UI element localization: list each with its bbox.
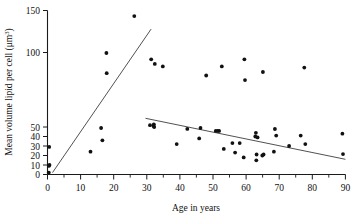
data-point xyxy=(274,134,278,138)
y-tick-label: 0 xyxy=(35,170,40,180)
x-tick-label: 70 xyxy=(274,183,284,193)
data-point xyxy=(220,65,224,69)
data-point xyxy=(222,147,226,151)
y-tick-label: 150 xyxy=(26,6,41,16)
y-axis-title-close: ) xyxy=(4,28,15,31)
y-tick-label: 40 xyxy=(31,132,41,142)
x-tick-label: 90 xyxy=(341,183,351,193)
y-tick-label: 50 xyxy=(31,123,41,133)
declining-regression-line xyxy=(146,118,346,159)
data-point xyxy=(153,62,157,66)
data-point xyxy=(233,151,237,155)
data-point xyxy=(273,127,277,131)
data-point xyxy=(303,142,307,146)
data-point xyxy=(287,144,291,148)
data-point xyxy=(261,70,265,74)
data-point xyxy=(47,145,51,149)
x-tick-label: 60 xyxy=(241,183,251,193)
y-tick-label: 100 xyxy=(26,48,41,58)
data-point xyxy=(161,65,165,69)
data-point xyxy=(302,66,306,70)
data-point xyxy=(243,78,247,82)
figure-container: 150 100 50 40 30 20 10 0 xyxy=(0,0,358,220)
data-point xyxy=(243,57,247,61)
data-point xyxy=(47,171,51,175)
data-point xyxy=(262,153,266,157)
data-point xyxy=(255,153,259,157)
x-tick-label: 80 xyxy=(308,183,318,193)
data-point xyxy=(341,152,345,156)
fit-lines xyxy=(53,29,346,173)
y-axis-title: Mean volume lipid per cell (μm3) xyxy=(3,28,15,155)
y-tick-label: 10 xyxy=(31,161,41,171)
data-point xyxy=(148,123,152,127)
y-tick-label: 30 xyxy=(31,142,41,152)
data-point xyxy=(238,141,242,145)
data-point xyxy=(242,156,246,160)
x-tick-label: 40 xyxy=(175,183,185,193)
data-point xyxy=(48,163,52,167)
data-point xyxy=(132,14,136,18)
data-point xyxy=(149,57,153,61)
x-tick-label: 0 xyxy=(45,183,50,193)
x-axis-title: Age in years xyxy=(172,203,220,213)
data-point xyxy=(197,137,201,141)
data-point xyxy=(185,127,189,131)
data-point xyxy=(204,74,208,78)
x-tick-label: 30 xyxy=(142,183,152,193)
y-tick-label: 20 xyxy=(31,151,41,161)
y-axis-title-unit: μm xyxy=(4,34,14,47)
data-point xyxy=(101,138,105,142)
data-point xyxy=(254,158,258,162)
data-point xyxy=(272,150,276,154)
rising-regression-line xyxy=(53,29,152,173)
data-point xyxy=(199,126,203,130)
data-point xyxy=(299,134,303,138)
y-axis-ticks xyxy=(43,11,48,175)
data-point xyxy=(89,150,93,154)
data-point xyxy=(256,136,260,140)
data-point xyxy=(231,141,235,145)
x-axis-tick-labels: 0 10 20 30 40 50 60 70 80 90 xyxy=(45,183,350,193)
data-point xyxy=(254,131,258,135)
data-point xyxy=(175,142,179,146)
x-tick-label: 10 xyxy=(76,183,86,193)
data-point xyxy=(152,125,156,129)
x-tick-label: 20 xyxy=(109,183,119,193)
data-point xyxy=(341,132,345,136)
data-point xyxy=(105,71,109,75)
data-point xyxy=(105,51,109,55)
scatter-plot: 150 100 50 40 30 20 10 0 xyxy=(0,0,358,220)
data-point xyxy=(217,129,221,133)
y-axis-tick-labels: 150 100 50 40 30 20 10 0 xyxy=(26,6,41,180)
x-tick-label: 50 xyxy=(208,183,218,193)
data-point xyxy=(99,126,103,130)
y-axis-title-main: Mean volume lipid per cell ( xyxy=(4,47,15,155)
